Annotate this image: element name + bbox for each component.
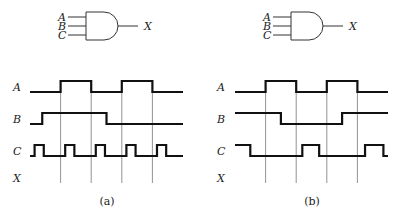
and-gate-body: [86, 12, 118, 40]
signal-label-b: B: [216, 113, 225, 126]
panel-a: ABCXABCX(a): [12, 11, 183, 208]
waveform-b: [235, 113, 388, 124]
panel-caption: (b): [304, 195, 320, 208]
panel-b: ABCXABCX(b): [216, 11, 388, 208]
signal-label-a: A: [12, 81, 21, 94]
and-gate-symbol: ABCX: [262, 11, 358, 42]
signal-label-x: X: [216, 172, 226, 185]
waveform-c: [30, 145, 183, 156]
waveform-a: [30, 81, 183, 92]
diagram-canvas: ABCXABCX(a) ABCXABCX(b): [0, 0, 404, 217]
gate-input-label-c: C: [263, 29, 272, 42]
waveform-b: [30, 113, 183, 124]
signal-label-c: C: [217, 145, 226, 158]
gate-output-label: X: [143, 20, 153, 33]
signal-label-c: C: [13, 145, 22, 158]
waveform-a: [235, 81, 388, 92]
gate-output-label: X: [348, 20, 358, 33]
waveform-c: [235, 145, 388, 156]
and-gate-body: [291, 12, 323, 40]
signal-label-b: B: [12, 113, 21, 126]
gate-input-label-c: C: [58, 29, 67, 42]
signal-label-x: X: [12, 172, 22, 185]
signal-label-a: A: [216, 81, 225, 94]
and-gate-symbol: ABCX: [57, 11, 153, 42]
panel-caption: (a): [99, 195, 114, 208]
